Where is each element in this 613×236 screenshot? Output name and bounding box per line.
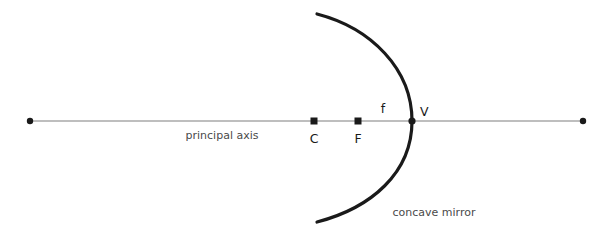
axis-left-endpoint-dot — [27, 118, 33, 124]
focal-length-label: f — [381, 101, 386, 116]
point-label-v: V — [420, 104, 429, 119]
concave-mirror-arc — [317, 14, 412, 222]
principal-axis-label: principal axis — [186, 129, 259, 142]
point-marker-f — [355, 118, 362, 125]
point-label-f: F — [354, 131, 361, 146]
point-marker-c — [311, 118, 318, 125]
concave-mirror-diagram: C F V f principal axis concave mirror — [0, 0, 613, 236]
optics-diagram-canvas: C F V f principal axis concave mirror — [0, 0, 613, 236]
point-marker-v — [408, 117, 415, 124]
axis-right-endpoint-dot — [580, 118, 586, 124]
concave-mirror-label: concave mirror — [393, 206, 476, 219]
point-label-c: C — [310, 131, 319, 146]
